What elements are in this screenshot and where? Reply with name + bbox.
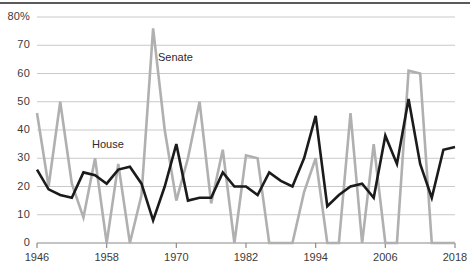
x-tick-label: 1958: [82, 252, 132, 263]
series-annotation-house: House: [92, 139, 124, 150]
x-tick-label: 1994: [291, 252, 341, 263]
x-tick-label: 1946: [12, 252, 62, 263]
y-tick-label: 70: [0, 39, 30, 50]
y-tick-label: 30: [0, 152, 30, 163]
series-line-senate: [37, 28, 455, 243]
data-series-group: [37, 28, 455, 243]
y-tick-label: 60: [0, 68, 30, 79]
x-tick-label: 1970: [151, 252, 201, 263]
x-tick-label: 1982: [221, 252, 271, 263]
x-tick-label: 2018: [430, 252, 470, 263]
chart-plot-area: [0, 0, 470, 278]
y-tick-label: 10: [0, 209, 30, 220]
y-tick-label: 0: [0, 237, 30, 248]
series-annotation-senate: Senate: [158, 52, 193, 63]
y-tick-label: 50: [0, 96, 30, 107]
y-tick-label: 80%: [0, 11, 30, 22]
x-tick-label: 2006: [360, 252, 410, 263]
y-tick-label: 20: [0, 181, 30, 192]
y-tick-label: 40: [0, 124, 30, 135]
chart-container: 01020304050607080% 194619581970198219942…: [0, 0, 470, 278]
